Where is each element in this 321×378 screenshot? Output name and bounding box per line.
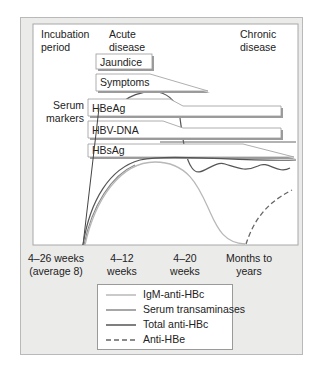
legend: IgM-anti-HBc Serum transaminases Total a… xyxy=(97,284,233,350)
timeline-incubation-line1: 4–26 weeks xyxy=(28,252,84,264)
legend-swatch-solid-medium xyxy=(106,308,136,312)
timeline-chronic-line1: Months to xyxy=(226,252,272,264)
phase-incubation-line1: Incubation xyxy=(41,28,90,40)
serum-label-line2: markers xyxy=(46,112,84,124)
phase-acute-line2: disease xyxy=(109,41,145,53)
symptoms-label: Symptoms xyxy=(100,76,150,88)
serum-label-line1: Serum xyxy=(53,99,84,111)
legend-label: IgM-anti-HBc xyxy=(143,288,204,301)
timeline-incubation-line2: (average 8) xyxy=(29,265,83,277)
timeline-convalescent-line1: 4–20 xyxy=(173,252,197,264)
timeline-acute-line2: weeks xyxy=(106,265,137,277)
phase-acute-line1: Acute xyxy=(109,28,136,40)
hbsag-label: HBsAg xyxy=(92,144,125,156)
timeline-chronic-line2: years xyxy=(236,265,262,277)
timeline-convalescent-line2: weeks xyxy=(169,265,200,277)
jaundice-label: Jaundice xyxy=(100,56,142,68)
hbeag-label: HBeAg xyxy=(92,102,125,114)
legend-item-total-anti-hbc: Total anti-HBc xyxy=(98,318,234,331)
legend-swatch-solid-light xyxy=(106,293,136,297)
timeline-acute-line1: 4–12 xyxy=(110,252,134,264)
legend-item-igm-anti-hbc: IgM-anti-HBc xyxy=(98,288,234,301)
legend-swatch-solid-dark xyxy=(106,323,136,327)
legend-label: Anti-HBe xyxy=(143,333,185,346)
legend-label: Serum transaminases xyxy=(143,303,245,316)
hbv-dna-label: HBV-DNA xyxy=(92,124,139,136)
jaundice-box: Jaundice xyxy=(96,54,154,71)
phase-chronic-line1: Chronic xyxy=(240,28,276,40)
legend-swatch-dashed xyxy=(106,338,136,342)
legend-label: Total anti-HBc xyxy=(143,318,208,331)
legend-item-anti-hbe: Anti-HBe xyxy=(98,333,234,346)
phase-chronic-line2: disease xyxy=(240,41,276,53)
phase-incubation-line2: period xyxy=(41,41,70,53)
legend-item-serum-transaminases: Serum transaminases xyxy=(98,303,234,316)
